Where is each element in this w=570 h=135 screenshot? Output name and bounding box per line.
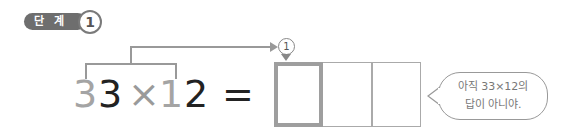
pointer-triangle-icon [281,54,291,61]
bubble-line-2: 답이 아니야. [439,96,547,114]
equals-sign: = [222,74,254,114]
answer-box-3[interactable] [372,62,421,127]
step-badge-label: 단 계 [34,15,67,28]
speech-bubble: 아직 33×12의 답이 아니야. [438,72,548,120]
bubble-tail-cover [438,88,441,104]
connector-vertical [130,46,132,64]
answer-box-1[interactable] [274,62,323,127]
times-sign: × [128,74,160,114]
arrow-head-icon [270,42,278,52]
step-badge: 단 계 [24,13,86,30]
arrow-marker-circle: 1 [278,38,295,55]
digit-tens-multiplicand: 3 [73,74,97,114]
answer-box-2[interactable] [323,62,371,127]
digit-tens-multiplier: 1 [159,74,183,114]
step-number-circle: 1 [78,10,102,34]
digit-ones-multiplier: 2 [184,74,208,114]
bubble-line-1: 아직 33×12의 [439,78,547,96]
connector-horizontal [130,46,276,48]
digit-ones-multiplicand: 3 [98,74,122,114]
